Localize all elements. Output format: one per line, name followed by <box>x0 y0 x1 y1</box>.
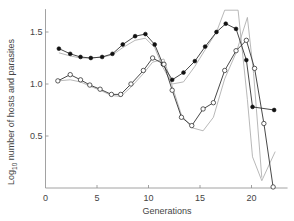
data-point-hosts-observed <box>144 32 148 36</box>
data-point-hosts-observed <box>79 55 83 59</box>
data-point-parasites-observed <box>56 79 60 83</box>
data-point-hosts-observed <box>244 58 248 62</box>
data-point-parasites-observed <box>150 56 154 60</box>
data-point-hosts-observed <box>121 43 125 47</box>
data-point-parasites-observed <box>190 123 194 127</box>
x-tick-label: 5 <box>94 193 99 203</box>
y-axis-title: Log10 number of hosts and parasites <box>6 39 18 185</box>
data-point-hosts-observed <box>234 27 238 31</box>
data-point-parasites-observed <box>179 115 183 119</box>
data-point-parasites-observed <box>78 78 82 82</box>
data-point-hosts-observed <box>251 105 255 109</box>
series-line-parasites-model <box>58 17 262 177</box>
x-tick-label: 0 <box>43 193 48 203</box>
data-point-parasites-observed <box>211 101 215 105</box>
data-point-hosts-observed <box>89 56 93 60</box>
data-point-hosts-observed <box>68 52 72 56</box>
y-tick-label: 1.5 <box>30 27 43 37</box>
y-axis-title-suffix: number of hosts and parasites <box>6 39 16 163</box>
data-point-hosts-observed <box>215 30 219 34</box>
data-point-parasites-observed <box>109 92 113 96</box>
data-point-hosts-observed <box>224 22 228 26</box>
y-tick-label: 1.0 <box>30 79 43 89</box>
data-point-parasites-observed <box>234 49 238 53</box>
data-point-parasites-observed <box>252 66 256 70</box>
data-point-hosts-observed <box>170 78 174 82</box>
y-axis-title-prefix: Log <box>6 170 16 185</box>
chart: 051015200.51.01.5 Generations Log10 numb… <box>0 0 294 221</box>
data-point-hosts-observed <box>203 45 207 49</box>
data-point-parasites-observed <box>88 83 92 87</box>
data-point-parasites-observed <box>262 121 266 125</box>
x-tick-label: 20 <box>246 193 256 203</box>
data-point-hosts-observed <box>272 108 276 112</box>
data-point-parasites-observed <box>170 88 174 92</box>
data-point-hosts-observed <box>57 47 61 51</box>
x-axis-title: Generations <box>142 206 192 216</box>
data-point-parasites-observed <box>98 87 102 91</box>
x-tick-label: 10 <box>143 193 153 203</box>
series-line-hosts-model <box>59 10 275 181</box>
data-point-parasites-observed <box>244 38 248 42</box>
data-point-parasites-observed <box>223 68 227 72</box>
data-point-parasites-observed <box>118 92 122 96</box>
data-point-parasites-observed <box>201 107 205 111</box>
data-point-parasites-observed <box>162 62 166 66</box>
data-point-hosts-observed <box>133 34 137 38</box>
data-point-hosts-observed <box>193 59 197 63</box>
data-point-hosts-observed <box>111 52 115 56</box>
data-point-parasites-observed <box>129 82 133 86</box>
series-layer <box>56 10 276 189</box>
data-point-parasites-observed <box>68 72 72 76</box>
data-point-hosts-observed <box>100 55 104 59</box>
y-tick-label: 0.5 <box>30 131 43 141</box>
data-point-parasites-observed <box>271 185 275 189</box>
data-point-parasites-observed <box>141 68 145 72</box>
data-point-hosts-observed <box>182 71 186 75</box>
x-tick-label: 15 <box>195 193 205 203</box>
axes: 051015200.51.01.5 <box>30 9 288 203</box>
data-point-hosts-observed <box>153 43 157 47</box>
